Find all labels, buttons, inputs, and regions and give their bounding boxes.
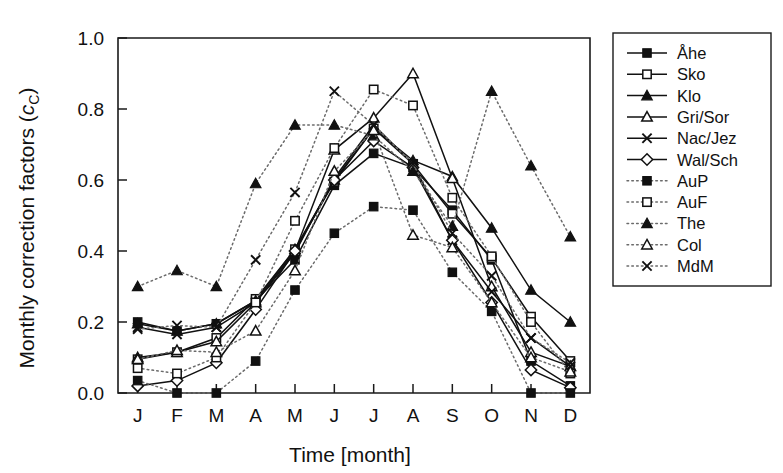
data-point-marker bbox=[291, 217, 299, 225]
data-point-marker bbox=[132, 281, 143, 290]
legend-label: The bbox=[677, 214, 705, 232]
data-point-marker bbox=[251, 255, 260, 264]
x-tick-label: A bbox=[407, 405, 420, 426]
data-point-marker bbox=[250, 326, 260, 335]
data-point-marker bbox=[290, 265, 301, 274]
series-the bbox=[132, 86, 575, 291]
line-chart: 0.00.20.40.60.81.0 JFMAMJJASOND Monthly … bbox=[0, 0, 783, 473]
data-point-marker bbox=[566, 389, 574, 397]
x-tick-label: J bbox=[369, 405, 379, 426]
series-nac-jez bbox=[133, 120, 575, 371]
legend-label: Col bbox=[677, 236, 702, 254]
data-point-marker bbox=[330, 87, 339, 96]
data-point-marker bbox=[172, 265, 183, 274]
data-point-marker bbox=[369, 85, 377, 93]
series-path bbox=[138, 141, 571, 388]
x-tick-label: M bbox=[287, 405, 303, 426]
data-point-marker bbox=[291, 286, 299, 294]
series-path bbox=[138, 91, 571, 286]
x-axis-ticks: JFMAMJJASOND bbox=[133, 384, 577, 426]
data-point-marker bbox=[250, 178, 260, 187]
data-point-marker bbox=[329, 120, 340, 129]
legend-label: AuF bbox=[677, 193, 707, 211]
data-point-marker bbox=[330, 229, 338, 237]
data-point-marker bbox=[409, 206, 417, 214]
data-point-marker bbox=[487, 252, 495, 260]
legend-marker-filled-square bbox=[643, 177, 651, 185]
series-path bbox=[138, 153, 571, 386]
data-point-marker bbox=[408, 230, 419, 239]
series-path bbox=[138, 207, 571, 393]
y-tick-label: 0.0 bbox=[78, 383, 104, 404]
data-point-marker bbox=[133, 376, 141, 384]
data-point-marker bbox=[290, 188, 299, 197]
x-tick-label: S bbox=[446, 405, 459, 426]
legend-label: AuP bbox=[677, 172, 708, 190]
series-gri-sor bbox=[132, 68, 575, 370]
data-point-marker bbox=[173, 369, 181, 377]
x-tick-label: O bbox=[484, 405, 499, 426]
legend-label: Nac/Jez bbox=[677, 129, 737, 147]
x-tick-label: D bbox=[563, 405, 577, 426]
x-tick-label: J bbox=[133, 405, 143, 426]
y-tick-label: 0.8 bbox=[78, 99, 104, 120]
series-layer bbox=[132, 68, 576, 397]
series-path bbox=[138, 129, 571, 331]
data-point-marker bbox=[527, 389, 535, 397]
data-point-marker bbox=[369, 149, 377, 157]
data-point-marker bbox=[211, 347, 222, 356]
y-tick-label: 0.6 bbox=[78, 170, 104, 191]
chart-figure: 0.00.20.40.60.81.0 JFMAMJJASOND Monthly … bbox=[0, 0, 783, 473]
legend-marker-open-square bbox=[643, 70, 651, 78]
data-point-marker bbox=[487, 307, 495, 315]
series-col bbox=[132, 125, 575, 376]
x-tick-label: M bbox=[208, 405, 224, 426]
y-axis-title: Monthly correction factors (cC) bbox=[15, 88, 42, 369]
data-point-marker bbox=[526, 285, 537, 294]
data-point-marker bbox=[369, 202, 377, 210]
chart-legend: ÅheSkoKloGri/SorNac/JezWal/SchAuPAuFTheC… bbox=[613, 33, 771, 286]
x-axis-title: Time [month] bbox=[289, 443, 411, 466]
data-point-marker bbox=[448, 194, 456, 202]
plot-frame bbox=[118, 38, 590, 393]
data-point-marker bbox=[526, 161, 537, 170]
legend-label: MdM bbox=[677, 257, 714, 275]
legend-label: Wal/Sch bbox=[677, 151, 738, 169]
y-tick-label: 0.2 bbox=[78, 312, 104, 333]
x-tick-label: A bbox=[249, 405, 262, 426]
series-wal-sch bbox=[132, 135, 576, 393]
data-point-marker bbox=[527, 318, 535, 326]
data-point-marker bbox=[133, 364, 141, 372]
data-point-marker bbox=[330, 144, 338, 152]
y-tick-label: 1.0 bbox=[78, 28, 104, 49]
data-point-marker bbox=[173, 389, 181, 397]
data-point-marker bbox=[526, 333, 535, 342]
legend-label: Åhe bbox=[677, 44, 706, 62]
data-point-marker bbox=[565, 232, 576, 241]
legend-label: Sko bbox=[677, 65, 705, 83]
legend-marker-filled-square bbox=[643, 49, 651, 57]
y-axis-ticks: 0.00.20.40.60.81.0 bbox=[78, 28, 127, 404]
data-point-marker bbox=[408, 68, 419, 77]
data-point-marker bbox=[448, 268, 456, 276]
series-auf bbox=[133, 85, 574, 377]
svg-text:Monthly correction factors (cC: Monthly correction factors (cC) bbox=[15, 88, 42, 369]
series-aup bbox=[133, 202, 574, 397]
data-point-marker bbox=[211, 281, 222, 290]
data-point-marker bbox=[525, 364, 536, 375]
data-point-marker bbox=[251, 357, 259, 365]
data-point-marker bbox=[409, 101, 417, 109]
data-point-marker bbox=[486, 86, 497, 95]
data-point-marker bbox=[212, 389, 220, 397]
x-tick-label: N bbox=[524, 405, 538, 426]
x-tick-label: F bbox=[171, 405, 183, 426]
x-tick-label: J bbox=[330, 405, 340, 426]
legend-marker-open-square bbox=[643, 198, 651, 206]
legend-label: Klo bbox=[677, 87, 701, 105]
data-point-marker bbox=[251, 298, 259, 306]
legend-label: Gri/Sor bbox=[677, 108, 730, 126]
y-tick-label: 0.4 bbox=[78, 241, 105, 262]
series--he bbox=[133, 149, 574, 390]
series-path bbox=[138, 89, 571, 373]
